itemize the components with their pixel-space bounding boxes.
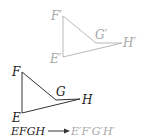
original-quadrilateral: F G H E [11,65,93,125]
label-h: H [81,93,93,107]
transformation-diagram: F′ G′ H′ E′ F G H E EFGH E′F′G′H′ [0,0,146,140]
caption-to: E′F′G′H′ [70,125,116,138]
image-quadrilateral: F′ G′ H′ E′ [49,9,136,66]
original-outline [22,72,80,113]
label-h-prime: H′ [122,36,136,50]
label-g: G [56,85,66,99]
arrow-right-icon [64,129,70,134]
label-e-prime: E′ [49,52,62,66]
label-g-prime: G′ [95,28,108,42]
image-outline [63,16,122,57]
label-e: E [11,111,21,125]
caption-from: EFGH [10,125,45,138]
label-f-prime: F′ [50,9,62,23]
label-f: F [11,65,21,79]
caption: EFGH E′F′G′H′ [10,125,116,138]
